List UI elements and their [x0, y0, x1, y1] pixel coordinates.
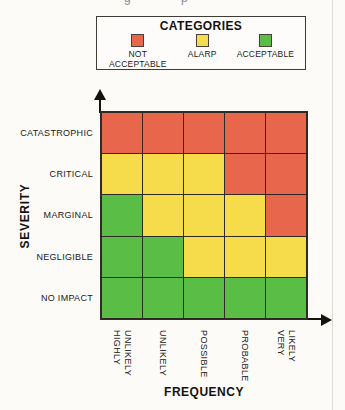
x-axis-label-unlikely: UNLIKELY	[158, 330, 169, 376]
x-axis-label-very-likely: VERY LIKELY	[275, 330, 297, 390]
y-axis-label-catastrophic: CATASTROPHIC	[20, 128, 93, 138]
matrix-cell-r4c2-acceptable	[143, 237, 183, 277]
y-axis-label-no-impact: NO IMPACT	[41, 293, 93, 303]
matrix-cell-r3c1-acceptable	[102, 195, 142, 235]
matrix-cell-r5c5-acceptable	[266, 278, 306, 318]
matrix-cell-r3c5-not-acceptable	[266, 195, 306, 235]
scan-text-fragment: g	[124, 0, 131, 5]
legend-items: NOT ACCEPTABLEALARPACCEPTABLE	[97, 34, 305, 69]
y-axis-label-marginal: MARGINAL	[44, 210, 93, 220]
matrix-cell-r4c1-acceptable	[102, 237, 142, 277]
matrix-cell-r5c2-acceptable	[143, 278, 183, 318]
matrix-cell-r4c5-alarp	[266, 237, 306, 277]
matrix-cell-r5c4-acceptable	[225, 278, 265, 318]
legend-item-not-acceptable: NOT ACCEPTABLE	[108, 34, 168, 69]
matrix-cell-r1c3-not-acceptable	[184, 113, 224, 153]
legend-color-swatch-alarp	[196, 34, 209, 47]
x-axis-label-highly-unlikely: HIGHLY UNLIKELY	[111, 330, 133, 376]
scan-page-edge-line	[332, 0, 333, 410]
matrix-cell-r2c1-alarp	[102, 154, 142, 194]
matrix-cell-r1c5-not-acceptable	[266, 113, 306, 153]
legend-item-label: ACCEPTABLE	[237, 49, 295, 59]
scan-text-fragment: p	[181, 0, 188, 5]
matrix-cell-r3c4-alarp	[225, 195, 265, 235]
matrix-cell-r1c1-not-acceptable	[102, 113, 142, 153]
legend-color-swatch-acceptable	[259, 34, 272, 47]
risk-matrix-figure: g p CATEGORIES NOT ACCEPTABLEALARPACCEPT…	[0, 0, 345, 410]
x-axis-title: FREQUENCY	[164, 385, 244, 399]
matrix-cell-r4c4-alarp	[225, 237, 265, 277]
matrix-cell-r3c2-alarp	[143, 195, 183, 235]
y-axis-arrowhead-icon	[94, 89, 106, 100]
legend-color-swatch-not-acceptable	[131, 34, 144, 47]
x-axis-arrowhead-icon	[321, 314, 332, 326]
y-axis-label-critical: CRITICAL	[50, 169, 93, 179]
matrix-cell-r2c5-not-acceptable	[266, 154, 306, 194]
x-axis-label-probable: PROBABLE	[240, 330, 251, 382]
legend-item-label: NOT ACCEPTABLE	[108, 49, 168, 69]
x-axis-tick-labels: HIGHLY UNLIKELYUNLIKELYPOSSIBLEPROBABLEV…	[100, 330, 308, 390]
risk-matrix-grid	[100, 111, 308, 320]
legend-title: CATEGORIES	[97, 19, 305, 33]
matrix-cell-r2c4-not-acceptable	[225, 154, 265, 194]
legend: CATEGORIES NOT ACCEPTABLEALARPACCEPTABLE	[96, 16, 306, 70]
matrix-cell-r1c2-not-acceptable	[143, 113, 183, 153]
matrix-cell-r2c3-alarp	[184, 154, 224, 194]
matrix-cell-r5c1-acceptable	[102, 278, 142, 318]
y-axis-tick-labels: CATASTROPHICCRITICALMARGINALNEGLIGIBLENO…	[0, 111, 96, 320]
matrix-cell-r3c3-alarp	[184, 195, 224, 235]
y-axis-label-negligible: NEGLIGIBLE	[36, 252, 93, 262]
matrix-cell-r1c4-not-acceptable	[225, 113, 265, 153]
legend-item-alarp: ALARP	[188, 34, 217, 59]
legend-item-acceptable: ACCEPTABLE	[237, 34, 295, 59]
y-axis-title: SEVERITY	[18, 184, 32, 249]
matrix-cell-r5c3-acceptable	[184, 278, 224, 318]
matrix-cell-r4c3-alarp	[184, 237, 224, 277]
matrix-cell-r2c2-alarp	[143, 154, 183, 194]
x-axis-label-possible: POSSIBLE	[199, 330, 210, 378]
legend-item-label: ALARP	[188, 49, 217, 59]
